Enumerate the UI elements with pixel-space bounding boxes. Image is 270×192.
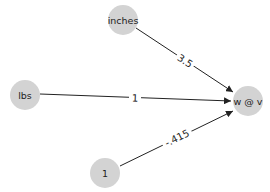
edge-label-inches-wv: 3.5: [173, 51, 196, 72]
svg-text:lbs: lbs: [18, 90, 32, 101]
node-one: 1: [90, 158, 120, 188]
svg-text:-.415: -.415: [163, 127, 191, 148]
node-inches: inches: [108, 5, 139, 35]
edge-label-lbs-wv: 1: [129, 92, 141, 104]
graph-canvas: 3.5 1 -.415 inches lbs 1 w @ v: [0, 0, 270, 192]
node-lbs: lbs: [10, 80, 40, 110]
edge-label-one-wv: -.415: [160, 126, 194, 151]
svg-text:1: 1: [132, 92, 139, 103]
svg-text:1: 1: [102, 168, 108, 179]
svg-text:inches: inches: [108, 15, 139, 26]
node-w-at-v: w @ v: [233, 86, 263, 116]
svg-text:w @ v: w @ v: [234, 96, 263, 107]
